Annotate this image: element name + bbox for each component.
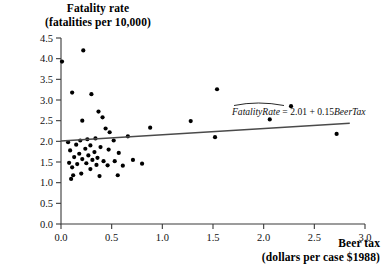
data-point [60,59,64,63]
data-point [108,130,112,134]
data-point [81,48,85,52]
data-point [94,163,98,167]
data-point [92,150,96,154]
y-axis-tick-label: 4.5 [40,33,53,44]
data-point [148,126,152,130]
x-axis-title-line-1: Beer tax [188,236,380,250]
data-point [101,159,105,163]
x-axis-tick-label: 0.0 [54,232,67,243]
data-point [121,164,125,168]
data-point [140,162,144,166]
data-point [80,157,84,161]
data-point [84,161,88,165]
data-point [98,145,102,149]
y-axis-tick-label: 0.5 [40,198,53,209]
regression-equation-label: FatalityRate = 2.01 + 0.15BeerTax [231,106,366,117]
data-point [69,177,73,181]
y-axis-tick-label: 3.0 [40,95,53,106]
data-point [74,143,78,147]
data-point [70,165,74,169]
data-point [67,161,71,165]
y-axis-tick-label: 4.0 [40,53,53,64]
data-point [213,135,217,139]
x-axis-tick-label: 1.0 [156,232,169,243]
y-axis-tick-label: 2.5 [40,115,53,126]
data-point [335,132,339,136]
data-point [88,167,92,171]
data-point [103,126,107,130]
data-point [71,173,75,177]
data-point [112,138,116,142]
data-point [96,109,100,113]
data-point [83,147,87,151]
data-point [68,148,72,152]
data-point [89,92,93,96]
data-point [90,158,94,162]
data-point [100,115,104,119]
data-point [75,162,79,166]
data-point [80,119,84,123]
y-axis-tick-label: 0.0 [40,219,53,230]
x-axis-tick-label: 0.5 [105,232,118,243]
data-point [131,158,135,162]
y-axis-tick-label: 1.0 [40,177,53,188]
fatality-rate-scatter-figure: Fatality rate (fatalities per 10,000) 0.… [0,0,384,277]
data-point [106,163,110,167]
y-axis-tick-label: 1.5 [40,157,53,168]
data-point [117,151,121,155]
x-axis-title-line-2: (dollars per case $1988) [188,250,380,264]
regression-line [61,123,350,141]
data-point [77,152,81,156]
data-point [107,148,111,152]
data-point [88,143,92,147]
data-point [116,173,120,177]
data-point [113,159,117,163]
data-point [95,156,99,160]
data-point [97,174,101,178]
y-axis-tick-label: 2.0 [40,136,53,147]
y-axis-tick-label: 3.5 [40,74,53,85]
data-point [215,87,219,91]
data-point [72,155,76,159]
x-axis-title: Beer tax (dollars per case $1988) [188,236,384,264]
data-point [79,171,83,175]
data-point [189,119,193,123]
data-point [70,90,74,94]
data-point [86,153,90,157]
data-point [268,117,272,121]
